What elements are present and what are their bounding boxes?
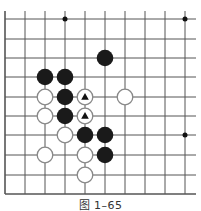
star-point-icon [63,17,68,22]
white-stone-icon [57,127,73,143]
black-stone-icon [57,69,74,86]
figure-caption: 图 1–65 [0,196,201,211]
white-stone [77,108,93,124]
board-grid [5,11,196,194]
white-stone [117,89,133,105]
white-stone-icon [77,167,93,183]
go-board [0,0,201,196]
white-stone-icon [117,89,133,105]
star-point-icon [183,133,188,138]
white-stone-icon [37,147,53,163]
black-stone-icon [77,127,94,144]
black-stone [57,69,74,86]
white-stone [37,89,53,105]
black-stone [57,89,74,106]
white-stone [77,167,93,183]
black-stone-icon [97,127,114,144]
black-stone [97,147,114,164]
black-stone [57,108,74,125]
white-stone-icon [37,89,53,105]
white-stone [37,147,53,163]
black-stone [97,50,114,67]
white-stone [77,89,93,105]
black-stone-icon [57,108,74,125]
black-stone [97,127,114,144]
white-stone-icon [77,147,93,163]
black-stone-icon [57,89,74,106]
black-stone-icon [97,50,114,67]
black-stone-icon [37,69,54,86]
white-stone [37,108,53,124]
white-stone [77,147,93,163]
black-stone [37,69,54,86]
white-stone [57,127,73,143]
star-point-icon [183,17,188,22]
black-stone [77,127,94,144]
black-stone-icon [97,147,114,164]
white-stone-icon [37,108,53,124]
